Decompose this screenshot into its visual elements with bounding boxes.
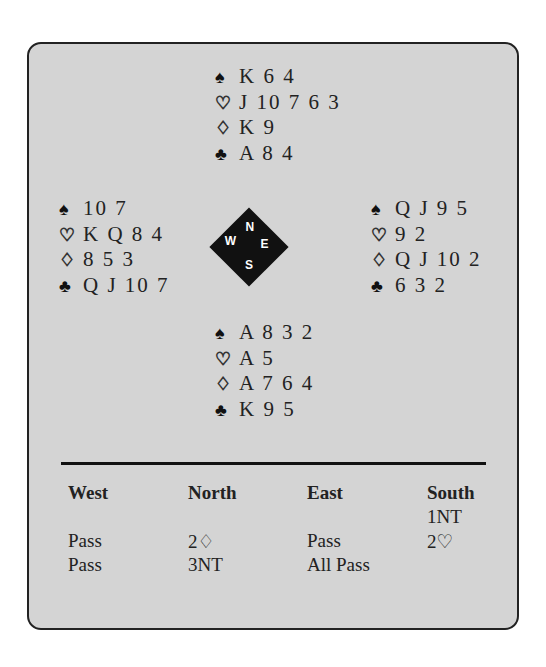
auction-call: 1NT — [427, 506, 462, 528]
auction-call: 2♡ — [427, 530, 454, 553]
south-spades: ♠A 8 3 2 — [215, 320, 314, 346]
compass-south: S — [245, 258, 253, 272]
divider — [61, 462, 486, 465]
spade-icon: ♠ — [215, 65, 239, 90]
west-hearts: ♡K Q 8 4 — [59, 222, 170, 248]
south-hearts-cards: A 5 — [239, 346, 275, 370]
auction-header-east: East — [307, 482, 343, 504]
south-clubs: ♣K 9 5 — [215, 397, 314, 423]
south-clubs-cards: K 9 5 — [239, 397, 296, 421]
north-hearts-cards: J 10 7 6 3 — [239, 90, 341, 114]
north-clubs: ♣A 8 4 — [215, 141, 341, 167]
west-spades-cards: 10 7 — [83, 196, 128, 220]
auction-header-west: West — [68, 482, 108, 504]
north-clubs-cards: A 8 4 — [239, 141, 295, 165]
diamond-icon: ♢ — [59, 248, 83, 273]
west-hearts-cards: K Q 8 4 — [83, 222, 164, 246]
north-hand: ♠K 6 4 ♡J 10 7 6 3 ♢K 9 ♣A 8 4 — [215, 64, 341, 166]
auction-call: Pass — [307, 530, 341, 552]
south-hand: ♠A 8 3 2 ♡A 5 ♢A 7 6 4 ♣K 9 5 — [215, 320, 314, 422]
north-diamonds: ♢K 9 — [215, 115, 341, 141]
south-spades-cards: A 8 3 2 — [239, 320, 314, 344]
north-spades: ♠K 6 4 — [215, 64, 341, 90]
south-diamonds-cards: A 7 6 4 — [239, 371, 314, 395]
west-hand: ♠10 7 ♡K Q 8 4 ♢8 5 3 ♣Q J 10 7 — [59, 196, 170, 298]
spade-icon: ♠ — [215, 321, 239, 346]
north-spades-cards: K 6 4 — [239, 64, 296, 88]
west-clubs-cards: Q J 10 7 — [83, 273, 170, 297]
east-clubs-cards: 6 3 2 — [395, 273, 447, 297]
east-hearts: ♡9 2 — [371, 222, 482, 248]
auction-header-south: South — [427, 482, 475, 504]
north-diamonds-cards: K 9 — [239, 115, 276, 139]
north-hearts: ♡J 10 7 6 3 — [215, 90, 341, 116]
east-hearts-cards: 9 2 — [395, 222, 427, 246]
heart-icon: ♡ — [371, 223, 395, 248]
compass-east: E — [261, 237, 269, 251]
south-diamonds: ♢A 7 6 4 — [215, 371, 314, 397]
compass-west: W — [225, 234, 236, 248]
auction-call: All Pass — [307, 554, 370, 576]
west-spades: ♠10 7 — [59, 196, 170, 222]
west-diamonds-cards: 8 5 3 — [83, 247, 135, 271]
auction-call: 2♢ — [188, 530, 215, 553]
heart-icon: ♡ — [59, 223, 83, 248]
east-diamonds-cards: Q J 10 2 — [395, 247, 482, 271]
auction-header-north: North — [188, 482, 237, 504]
west-clubs: ♣Q J 10 7 — [59, 273, 170, 299]
club-icon: ♣ — [215, 398, 239, 423]
diamond-icon: ♢ — [215, 372, 239, 397]
club-icon: ♣ — [215, 142, 239, 167]
club-icon: ♣ — [59, 274, 83, 299]
east-diamonds: ♢Q J 10 2 — [371, 247, 482, 273]
east-spades-cards: Q J 9 5 — [395, 196, 469, 220]
east-hand: ♠Q J 9 5 ♡9 2 ♢Q J 10 2 ♣6 3 2 — [371, 196, 482, 298]
diamond-icon: ♢ — [371, 248, 395, 273]
heart-icon: ♡ — [215, 347, 239, 372]
heart-icon: ♡ — [215, 91, 239, 116]
compass-north: N — [246, 220, 255, 234]
east-clubs: ♣6 3 2 — [371, 273, 482, 299]
auction-call: 3NT — [188, 554, 223, 576]
spade-icon: ♠ — [59, 197, 83, 222]
auction-call: Pass — [68, 554, 102, 576]
diamond-icon: ♢ — [215, 116, 239, 141]
auction-call: Pass — [68, 530, 102, 552]
south-hearts: ♡A 5 — [215, 346, 314, 372]
west-diamonds: ♢8 5 3 — [59, 247, 170, 273]
club-icon: ♣ — [371, 274, 395, 299]
east-spades: ♠Q J 9 5 — [371, 196, 482, 222]
spade-icon: ♠ — [371, 197, 395, 222]
